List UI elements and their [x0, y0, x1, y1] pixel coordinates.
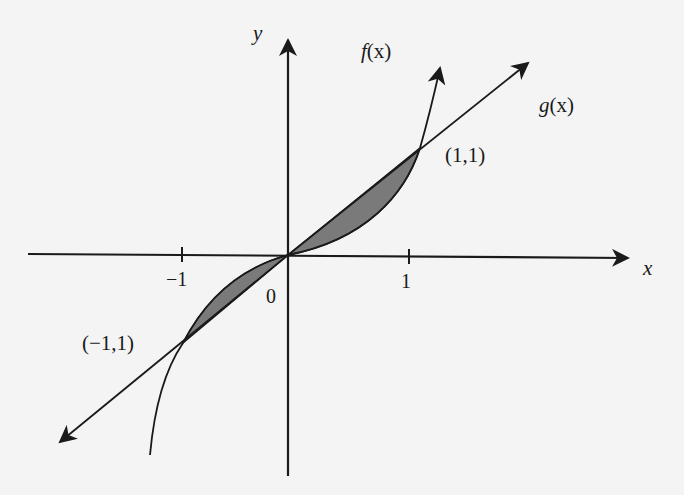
g-label-arg: (x) [550, 93, 575, 117]
x-axis-label: x [642, 256, 653, 280]
f-curve-label: f(x) [361, 39, 391, 63]
f-label-arg: (x) [367, 39, 392, 63]
point-label-neg1-1: (−1,1) [82, 331, 134, 355]
curve-f [150, 68, 440, 455]
y-axis-label: y [251, 21, 263, 45]
function-graph-figure: y x f(x) g(x) (1,1) (−1,1) −1 1 0 [0, 0, 684, 495]
tick-label-neg-one: −1 [166, 268, 187, 290]
tick-label-one: 1 [401, 270, 411, 292]
point-label-1-1: (1,1) [445, 143, 485, 167]
tick-label-zero: 0 [266, 285, 276, 307]
g-curve-label: g(x) [539, 93, 574, 117]
g-label-name: g [539, 93, 550, 117]
x-axis [28, 254, 628, 258]
